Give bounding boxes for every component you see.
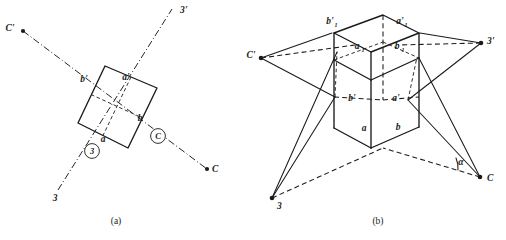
point-three-b-dot: [270, 196, 275, 201]
ray-three-to-upper: [272, 52, 337, 198]
label-three-prime-b: 3': [486, 36, 495, 46]
block-hidden-diagonal-right: [383, 97, 419, 100]
caption-b: (b): [372, 216, 383, 227]
block-mid-right-slope: [371, 58, 419, 80]
caption-a: (a): [111, 216, 122, 227]
label-c-prime-a: C': [6, 23, 15, 33]
label-a1-subscript: 1: [362, 47, 365, 53]
technical-drawing-figure: 3 C C' 3' 3 C b' a' a b (a): [0, 0, 506, 240]
block-hidden-mid-to-top-left: [335, 52, 337, 97]
label-a1-prime: a': [396, 16, 404, 26]
label-b-a: b: [138, 113, 143, 123]
label-a-b: a: [362, 123, 367, 133]
label-a-prime-b: a': [392, 93, 400, 103]
label-b-prime-a: b': [80, 74, 88, 84]
label-group-b1: b 1: [395, 41, 405, 53]
label-group-b1-prime: b' 1: [326, 16, 337, 28]
label-a1: a: [355, 41, 360, 51]
square-outline: [78, 66, 157, 148]
panel-a: 3 C C' 3' 3 C b' a' a b (a): [6, 5, 219, 227]
point-three-prime-b-dot: [479, 41, 484, 46]
point-c-prime-dot: [21, 29, 25, 33]
label-c-prime-b: C': [247, 50, 256, 60]
panel-b: C' 3' 3 C α b' 1 a' 1 a 1 b 1: [247, 15, 495, 227]
circled-three-marker-label: 3: [89, 146, 95, 156]
label-angle-alpha: α: [458, 157, 464, 167]
ray-three-prime-to-top-right: [420, 33, 481, 43]
label-b1: b: [395, 41, 400, 51]
label-a-a: a: [101, 134, 106, 144]
label-c-b: C: [487, 173, 494, 183]
ray-three-to-mid-left: [272, 97, 335, 198]
label-three-b: 3: [276, 201, 282, 211]
block-mid-left-slope: [334, 60, 371, 80]
label-b1-prime: b': [326, 16, 334, 26]
ray-c-prime-to-inner-top: [261, 45, 355, 58]
label-c-a: C: [212, 164, 219, 174]
ray-c-prime-to-top-left: [261, 33, 332, 58]
label-group-a1: a 1: [355, 41, 365, 53]
figure-root: 3 C C' 3' 3 C b' a' a b (a): [0, 0, 506, 240]
block-hidden-diagonal-left: [334, 97, 383, 100]
point-c-dot: [205, 167, 209, 171]
circled-c-marker-label: C: [155, 131, 161, 141]
label-group-a1-prime: a' 1: [396, 16, 407, 28]
ray-three-prime-to-inner-top: [398, 43, 481, 45]
label-b-b: b: [396, 122, 401, 132]
axis-line-three-to-three-prime: [58, 9, 172, 190]
label-three-prime-a: 3': [179, 5, 188, 15]
point-c-b-dot: [478, 175, 483, 180]
ray-three-to-bottom: [272, 148, 383, 198]
label-a-prime-a: a': [122, 72, 130, 82]
label-three-a: 3: [52, 193, 58, 203]
label-b1-prime-subscript: 1: [335, 22, 338, 28]
ray-c-to-bottom: [383, 148, 480, 177]
label-b-prime-b: b': [348, 93, 356, 103]
label-a1-prime-subscript: 1: [405, 22, 408, 28]
ray-c-to-mid: [419, 58, 480, 177]
ray-c-prime-to-mid-left: [261, 58, 335, 97]
square-median-vertical: [103, 77, 131, 136]
label-b1-subscript: 1: [402, 47, 405, 53]
point-c-prime-b-dot: [259, 56, 264, 61]
